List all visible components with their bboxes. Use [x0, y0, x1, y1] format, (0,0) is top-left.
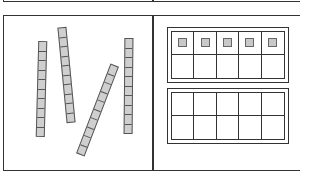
rod-unit-cube [125, 58, 132, 68]
ten-frame-cell [172, 32, 194, 55]
rod-unit-cube [124, 124, 131, 133]
rod-unit-cube [124, 86, 131, 96]
unit-counter-square [268, 38, 277, 47]
top-strip-divider [152, 0, 154, 2]
ten-frame-grid [171, 92, 285, 140]
rod-unit-cube [36, 118, 43, 128]
ten-frame-cell [217, 93, 239, 116]
ten-frame-cell [217, 32, 239, 55]
rod-unit-cube [37, 99, 44, 109]
ten-frame-cell [239, 32, 261, 55]
ten-frame-cell [172, 116, 194, 139]
rod-unit-cube [124, 105, 131, 115]
ten-frame-cell [239, 93, 261, 116]
rod-unit-cube [124, 96, 131, 106]
rod-unit-cube [38, 61, 45, 71]
unit-counter-square [178, 38, 187, 47]
rod-unit-cube [37, 108, 44, 118]
ten-frame-cell [239, 55, 261, 78]
ten-frame-grid [171, 31, 285, 79]
unit-counter-square [245, 38, 254, 47]
ten-frame [167, 88, 289, 144]
unit-counter-square [201, 38, 210, 47]
ten-frame-cell [172, 93, 194, 116]
ten-frame-cell [262, 93, 284, 116]
ten-frame-cell [262, 55, 284, 78]
ten-frame-cell [194, 93, 216, 116]
rod-unit-cube [37, 89, 44, 99]
rod-unit-cube [77, 145, 87, 155]
rod-unit-cube [66, 113, 74, 122]
ten-frame-cell [194, 32, 216, 55]
rod-unit-cube [37, 80, 44, 90]
base-ten-rod [123, 38, 133, 134]
rod-unit-cube [38, 70, 45, 80]
ten-frame-cell [239, 116, 261, 139]
ten-frame-cell [194, 55, 216, 78]
base-ten-rod [35, 41, 47, 137]
ten-frame-cell [262, 116, 284, 139]
rod-unit-cube [125, 48, 132, 58]
ten-frame-cell [194, 116, 216, 139]
rod-unit-cube [38, 42, 45, 52]
rod-unit-cube [38, 51, 45, 61]
rod-unit-cube [124, 115, 131, 125]
ten-frame-cell [217, 55, 239, 78]
panel-divider [152, 15, 154, 171]
ten-frame [167, 27, 289, 83]
ten-frame-cell [172, 55, 194, 78]
rod-unit-cube [125, 67, 132, 77]
rod-unit-cube [124, 77, 131, 87]
unit-counter-square [223, 38, 232, 47]
rod-unit-cube [125, 39, 132, 49]
rod-unit-cube [36, 127, 43, 136]
ten-frame-cell [217, 116, 239, 139]
ten-frame-cell [262, 32, 284, 55]
